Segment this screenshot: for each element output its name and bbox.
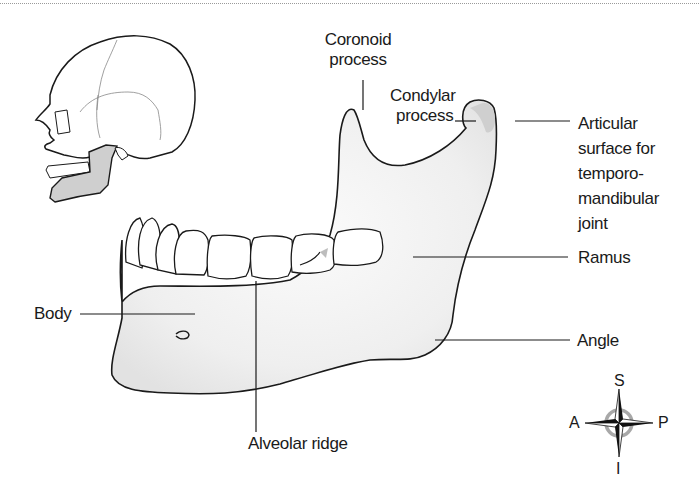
label-line: Condylar (388, 86, 456, 106)
label-angle: Angle (577, 331, 619, 351)
label-line: Coronoid (298, 30, 418, 50)
label-ramus: Ramus (578, 248, 630, 268)
compass-anterior: A (569, 414, 580, 432)
compass-inferior: I (616, 460, 620, 478)
compass-posterior: P (658, 414, 669, 432)
label-line: joint (578, 211, 659, 236)
label-line: temporo- (578, 161, 659, 186)
label-articular-surface: Articular surface for temporo- mandibula… (578, 111, 659, 236)
label-line: mandibular (578, 186, 659, 211)
label-body: Body (34, 304, 72, 324)
label-line: surface for (578, 136, 659, 161)
label-line: process (388, 106, 456, 126)
skull-inset (36, 36, 195, 178)
label-line: Articular (578, 111, 659, 136)
label-coronoid-process: Coronoid process (298, 30, 418, 70)
compass-superior: S (614, 372, 625, 390)
label-alveolar-ridge: Alveolar ridge (248, 434, 348, 454)
label-line: process (298, 50, 418, 70)
label-condylar-process: Condylar process (388, 86, 456, 126)
compass-rose (585, 389, 653, 457)
